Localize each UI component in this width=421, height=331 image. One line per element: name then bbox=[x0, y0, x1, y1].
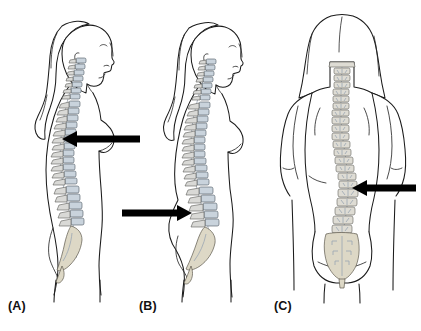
panel-label-b: (B) bbox=[139, 300, 157, 313]
scapula-right-c bbox=[364, 108, 369, 135]
spine-illustration-figure: (A) (B) (C) bbox=[0, 0, 421, 331]
panel-label-a: (A) bbox=[8, 300, 26, 313]
atlas-c bbox=[329, 62, 355, 67]
thoracic-vertebrae-c bbox=[332, 117, 357, 188]
panel-label-c: (C) bbox=[274, 300, 292, 313]
head-profile-b bbox=[191, 26, 243, 94]
panel-b-lateral-lumbar bbox=[133, 0, 278, 331]
head-profile-a bbox=[62, 25, 114, 93]
lumbar-vertebrae-c bbox=[332, 189, 358, 233]
leg-outer-left-c bbox=[292, 200, 294, 290]
panel-a-lateral-thoracic bbox=[0, 0, 140, 331]
sacrum-b bbox=[186, 227, 215, 270]
lumbar-vertebrae-b bbox=[186, 187, 219, 227]
scapula-left-c bbox=[315, 108, 320, 135]
leg-outer-right-c bbox=[393, 200, 395, 290]
panel-c-posterior-scoliosis bbox=[268, 0, 421, 331]
leg-right-c bbox=[359, 284, 360, 303]
panel-c-drawing bbox=[268, 0, 421, 300]
leg-left-c bbox=[324, 284, 325, 303]
arrow-lateral-curve-c bbox=[352, 180, 416, 196]
torso-front-contour-b bbox=[222, 94, 243, 297]
panel-a-drawing bbox=[0, 0, 140, 300]
sacrum-a bbox=[57, 226, 82, 271]
panel-b-drawing bbox=[133, 0, 278, 300]
cervical-vertebrae-c bbox=[332, 68, 350, 116]
torso-front-contour-a bbox=[93, 93, 114, 295]
coccyx-c bbox=[339, 279, 345, 288]
